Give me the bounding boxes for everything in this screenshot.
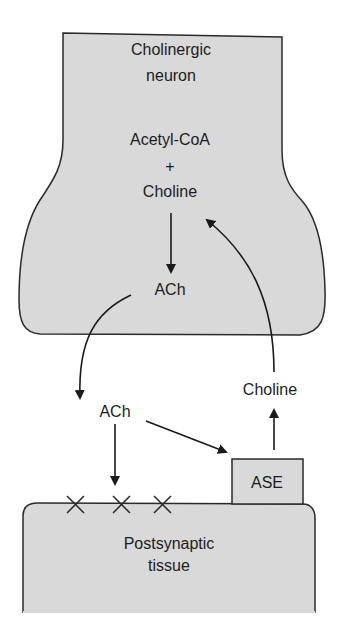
ase-label: ASE bbox=[251, 474, 283, 492]
plus-sign: + bbox=[165, 158, 174, 176]
neuron-title-line2: neuron bbox=[146, 67, 196, 85]
acetyl-coa-label: Acetyl-CoA bbox=[130, 131, 210, 149]
postsynaptic-line1: Postsynaptic bbox=[124, 535, 215, 553]
postsynaptic-line2: tissue bbox=[148, 557, 190, 575]
arrow-to-ase-icon bbox=[146, 421, 226, 452]
ach-cleft-label: ACh bbox=[99, 403, 130, 421]
choline-neuron-label: Choline bbox=[143, 183, 197, 201]
ach-neuron-label: ACh bbox=[154, 281, 185, 299]
neuron-title-line1: Cholinergic bbox=[131, 41, 211, 59]
choline-cleft-label: Choline bbox=[243, 381, 297, 399]
